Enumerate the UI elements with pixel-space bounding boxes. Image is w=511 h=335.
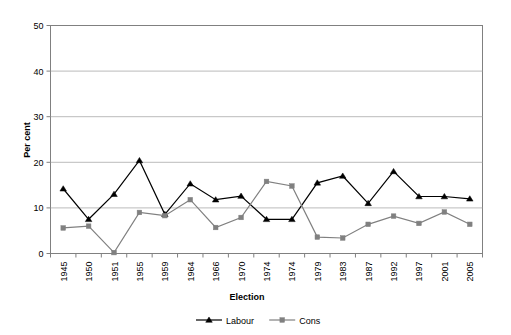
y-axis: 01020304050 [33,21,482,259]
x-tick-label: 2001 [440,262,450,282]
x-tick-label: 1955 [135,262,145,282]
x-tick-label: 1979 [313,262,323,282]
x-tick-label: 1951 [110,262,120,282]
legend-label: Labour [226,316,254,326]
chart-container: 01020304050 1945195019511955195919641966… [0,0,511,335]
x-tick-label: 1945 [59,262,69,282]
data-point-marker [239,215,244,220]
series-labour [60,157,473,221]
legend-item-labour: Labour [196,316,254,326]
y-tick-label: 0 [38,249,43,259]
x-tick-label: 1950 [84,262,94,282]
data-series-group [60,157,473,254]
chart-legend: LabourCons [196,316,321,326]
data-point-marker [264,179,269,184]
y-tick-label: 50 [33,21,43,31]
x-tick-label: 1966 [211,262,221,282]
series-line [63,160,470,219]
y-axis-title: Per cent [22,122,32,158]
x-tick-label: 1970 [237,262,247,282]
data-point-marker [366,222,371,227]
data-point-marker [340,236,345,241]
x-tick-label: 1992 [389,262,399,282]
data-point-marker [290,184,295,189]
data-point-marker [315,235,320,240]
data-point-marker [339,173,346,178]
x-tick-label: 1997 [414,262,424,282]
data-point-marker [280,318,285,323]
y-tick-label: 30 [33,112,43,122]
x-tick-label: 1974 [287,262,297,282]
y-tick-label: 20 [33,158,43,168]
x-tick-label: 1964 [186,262,196,282]
data-point-marker [112,250,117,255]
data-point-marker [213,225,218,230]
legend-label: Cons [299,316,321,326]
data-point-marker [136,157,143,162]
x-tick-label: 1974 [262,262,272,282]
data-point-marker [442,210,447,215]
data-point-marker [61,226,66,231]
data-point-marker [60,186,67,191]
y-tick-label: 40 [33,67,43,77]
x-tick-labels: 1945195019511955195919641966197019741974… [59,262,476,282]
x-tick-label: 1983 [338,262,348,282]
x-axis-title: Election [229,292,264,302]
data-point-marker [467,222,472,227]
x-tick-label: 1959 [160,262,170,282]
legend-item-cons: Cons [269,316,321,326]
data-point-marker [163,213,168,218]
data-point-marker [188,197,193,202]
x-tick-label: 2005 [465,262,475,282]
data-point-marker [417,221,422,226]
data-point-marker [390,168,397,173]
data-point-marker [391,214,396,219]
x-tick-label: 1987 [364,262,374,282]
y-tick-label: 10 [33,203,43,213]
line-chart: 01020304050 1945195019511955195919641966… [0,0,511,335]
data-point-marker [86,224,91,229]
data-point-marker [187,181,194,186]
data-point-marker [238,193,245,198]
data-point-marker [137,210,142,215]
